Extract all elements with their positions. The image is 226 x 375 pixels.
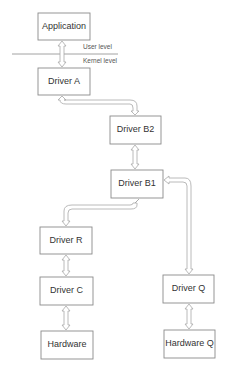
edge-driver-b2-driver-b1 (131, 145, 139, 169)
node-driver-c-label: Driver C (50, 285, 83, 295)
driver-stack-diagram: User level Kernel level Application Driv… (0, 0, 226, 375)
node-hardware-label: Hardware (47, 339, 86, 349)
node-hardware-q: Hardware Q (164, 330, 215, 358)
edge-driver-b1-driver-r (62, 199, 139, 226)
user-level-label: User level (83, 43, 112, 50)
node-hardware-q-label: Hardware Q (165, 338, 214, 348)
node-driver-q-label: Driver Q (172, 283, 206, 293)
node-driver-b1-label: Driver B1 (118, 178, 156, 188)
edge-driver-q-hardware-q (185, 304, 193, 329)
node-driver-c: Driver C (40, 277, 93, 305)
node-driver-b2: Driver B2 (110, 116, 161, 144)
edge-driver-a-driver-b2 (58, 96, 139, 115)
edge-driver-r-driver-c (62, 255, 70, 276)
kernel-level-label: Kernel level (83, 57, 118, 64)
node-driver-q: Driver Q (163, 275, 214, 303)
edge-driver-c-hardware (62, 306, 70, 330)
node-application: Application (38, 13, 90, 40)
node-driver-r: Driver R (40, 227, 92, 254)
node-hardware: Hardware (41, 331, 93, 359)
node-driver-b2-label: Driver B2 (117, 124, 155, 134)
node-driver-a: Driver A (38, 68, 90, 95)
edge-driver-q-driver-b1 (164, 176, 193, 274)
node-driver-b1: Driver B1 (111, 170, 163, 198)
node-application-label: Application (42, 21, 86, 31)
node-driver-a-label: Driver A (48, 76, 80, 86)
node-driver-r-label: Driver R (50, 235, 83, 245)
